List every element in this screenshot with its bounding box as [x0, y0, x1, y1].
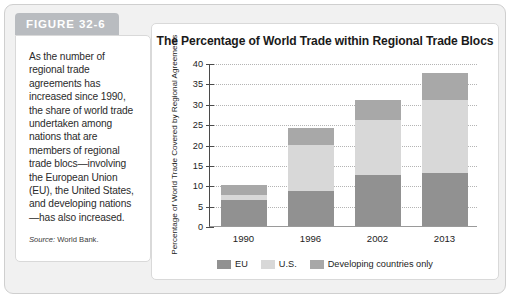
- x-axis-tick-label: 2013: [434, 233, 455, 244]
- legend-label: EU: [235, 259, 248, 269]
- bar-segment-developing-countries-only: [355, 100, 401, 120]
- y-axis-tick: [206, 146, 214, 147]
- bar-segment-developing-countries-only: [288, 128, 334, 144]
- y-axis-tick: [206, 125, 214, 126]
- bar-segment-developing-countries-only: [221, 185, 267, 195]
- bar-segment-u-s: [422, 100, 468, 173]
- y-axis-tick: [206, 186, 214, 187]
- chart-title: The Percentage of World Trade within Reg…: [152, 34, 498, 48]
- y-gridline: [210, 64, 477, 65]
- y-axis-tick: [206, 166, 214, 167]
- x-axis-tick-label: 1996: [300, 233, 321, 244]
- bar-segment-eu: [221, 200, 267, 226]
- chart-legend: EUU.S.Developing countries only: [152, 259, 498, 269]
- y-axis-tick: [206, 64, 214, 65]
- legend-item: Developing countries only: [310, 259, 433, 269]
- bar-segment-eu: [422, 173, 468, 226]
- figure-source-line: Source: World Bank.: [29, 235, 138, 244]
- y-axis-tick: [206, 105, 214, 106]
- bar-2002: [355, 100, 401, 226]
- bar-1990: [221, 185, 267, 226]
- source-value: World Bank.: [57, 235, 98, 244]
- source-label: Source:: [29, 235, 55, 244]
- y-axis-title: Percentage of World Trade Covered by Reg…: [164, 62, 186, 227]
- legend-label: U.S.: [279, 259, 297, 269]
- figure-caption-text: As the number of regional trade agreemen…: [29, 50, 138, 224]
- figure-caption-panel: As the number of regional trade agreemen…: [15, 35, 151, 262]
- chart-panel: The Percentage of World Trade within Reg…: [151, 23, 499, 280]
- y-axis-title-text: Percentage of World Trade Covered by Reg…: [170, 35, 179, 255]
- bar-segment-developing-countries-only: [422, 73, 468, 99]
- plot-area: 05101520253035401990199620022013: [209, 64, 477, 227]
- legend-swatch: [310, 260, 324, 269]
- legend-swatch: [217, 260, 231, 269]
- y-axis-tick-label: 30: [193, 100, 203, 110]
- plot-wrapper: Percentage of World Trade Covered by Reg…: [164, 62, 488, 272]
- legend-item: EU: [217, 259, 248, 269]
- bar-2013: [422, 73, 468, 226]
- y-axis-tick-label: 35: [193, 79, 203, 89]
- y-axis-tick: [206, 227, 214, 228]
- y-axis-tick: [206, 84, 214, 85]
- figure-card: FIGURE 32-6 As the number of regional tr…: [4, 4, 506, 294]
- y-axis-tick-label: 20: [193, 141, 203, 151]
- y-axis-tick-label: 0: [198, 222, 203, 232]
- legend-item: U.S.: [261, 259, 297, 269]
- y-axis-tick: [206, 207, 214, 208]
- x-axis-tick-label: 1990: [233, 233, 254, 244]
- y-axis-tick-label: 25: [193, 120, 203, 130]
- y-axis-tick-label: 15: [193, 161, 203, 171]
- bar-segment-u-s: [288, 145, 334, 192]
- y-axis-tick-label: 10: [193, 181, 203, 191]
- bar-segment-u-s: [355, 120, 401, 175]
- x-axis-tick-label: 2002: [367, 233, 388, 244]
- legend-swatch: [261, 260, 275, 269]
- y-axis-tick-label: 40: [193, 59, 203, 69]
- legend-label: Developing countries only: [328, 259, 433, 269]
- bar-segment-eu: [288, 191, 334, 226]
- bar-1996: [288, 128, 334, 226]
- y-axis-tick-label: 5: [198, 202, 203, 212]
- figure-number-badge: FIGURE 32-6: [15, 13, 119, 35]
- bar-segment-eu: [355, 175, 401, 226]
